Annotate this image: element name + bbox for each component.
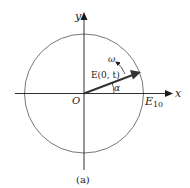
figure-caption: (a) (76, 174, 90, 185)
amplitude-label: E10 (144, 95, 163, 109)
amplitude-main: E (144, 95, 153, 108)
amplitude-subscript: 10 (153, 100, 163, 109)
x-axis-arrow-icon (165, 90, 173, 97)
alpha-label: α (114, 83, 120, 93)
phasor-diagram: y x O E(0, t) ω α E10 (a) (0, 0, 190, 188)
omega-label: ω (108, 54, 116, 64)
x-axis-label: x (175, 87, 182, 100)
y-axis-label: y (74, 10, 82, 23)
origin-label: O (72, 95, 80, 106)
vector-label: E(0, t) (91, 70, 120, 80)
y-axis-arrow-icon (81, 12, 88, 20)
